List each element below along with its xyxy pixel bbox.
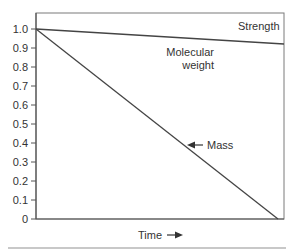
mass-arrow-icon (187, 142, 203, 149)
mass-label: Mass (207, 139, 234, 151)
time-arrow-icon (167, 232, 183, 239)
y-tick-label: 0.2 (13, 175, 28, 187)
mass-line (36, 29, 278, 219)
y-tick-label: 0.1 (13, 194, 28, 206)
y-tick-label: 1.0 (13, 23, 28, 35)
y-tick-label: 0.5 (13, 118, 28, 130)
strength-label: Strength (238, 20, 280, 32)
y-tick-label: 0.6 (13, 99, 28, 111)
line-chart: 1.0 0.9 0.8 0.7 0.6 0.5 0.4 0.3 0.2 0.1 … (0, 0, 292, 250)
x-axis-label: Time (138, 229, 162, 241)
y-tick-label: 0.9 (13, 42, 28, 54)
plot-frame (36, 13, 284, 219)
y-tick-label: 0 (22, 213, 28, 225)
y-tick-labels: 1.0 0.9 0.8 0.7 0.6 0.5 0.4 0.3 0.2 0.1 … (13, 23, 28, 225)
molecular-weight-label-line2: weight (181, 59, 214, 71)
bottom-divider (8, 247, 286, 249)
chart: 1.0 0.9 0.8 0.7 0.6 0.5 0.4 0.3 0.2 0.1 … (0, 0, 292, 250)
y-tick-label: 0.3 (13, 156, 28, 168)
y-ticks (31, 29, 36, 219)
y-tick-label: 0.4 (13, 137, 28, 149)
y-tick-label: 0.7 (13, 80, 28, 92)
molecular-weight-label-line1: Molecular (166, 46, 214, 58)
y-tick-label: 0.8 (13, 61, 28, 73)
